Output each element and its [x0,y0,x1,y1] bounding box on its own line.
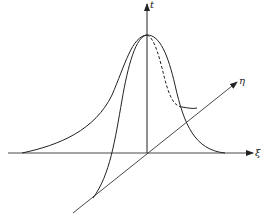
diagram-canvas [0,0,264,219]
xi-axis-label: ξ [255,147,261,158]
eta-axis [73,82,237,213]
profile-tail [182,107,197,108]
eta-profile-curve [93,35,147,198]
eta-axis-label: η [239,75,245,86]
hidden-profile-dashed [147,35,182,107]
t-axis-label: t [150,0,154,10]
